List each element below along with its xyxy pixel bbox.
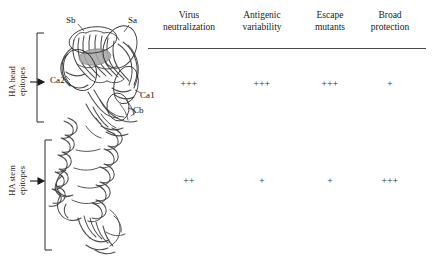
column-header-line2: variability — [242, 22, 281, 34]
column-header-broad-protection: Broad protection — [371, 10, 410, 33]
epitope-ellipse-sa — [97, 21, 143, 74]
head-region-bracket — [37, 33, 44, 122]
column-header-line1: Antigenic — [242, 10, 281, 22]
stem-helix-b — [88, 128, 122, 222]
epitope-label-ca2: Ca2 — [50, 75, 65, 85]
epitope-label-sa: Sa — [128, 15, 137, 25]
region-label-ha-stem: HA stem epitopes — [8, 151, 27, 211]
table-row: +++ — [322, 79, 339, 89]
table-row: + — [327, 176, 333, 186]
column-header-escape-mutants: Escape mutants — [315, 10, 345, 33]
column-header-virus-neutralization: Virus neutralization — [163, 10, 215, 33]
table-row: +++ — [382, 176, 399, 186]
column-header-antigenic-variability: Antigenic variability — [242, 10, 281, 33]
stem-helix-a — [49, 118, 77, 206]
region-label-ha-stem-line2: epitopes — [17, 151, 27, 211]
table-row: + — [259, 176, 265, 186]
region-label-ha-head-line2: epitopes — [17, 52, 27, 112]
column-header-line2: protection — [371, 22, 410, 34]
table-row: +++ — [181, 79, 198, 89]
column-header-line1: Escape — [315, 10, 345, 22]
ha-structure-illustration — [0, 0, 437, 266]
influenza-ha-epitope-figure: HA head epitopes HA stem epitopes Sb Sa … — [0, 0, 437, 266]
table-row: + — [387, 79, 393, 89]
column-header-line1: Broad — [371, 10, 410, 22]
region-label-ha-head: HA head epitopes — [8, 52, 27, 112]
table-header-rule — [148, 48, 426, 49]
column-header-line1: Virus — [163, 10, 215, 22]
epitope-label-ca1: Ca1 — [140, 90, 155, 100]
table-row: +++ — [254, 79, 271, 89]
column-header-line2: mutants — [315, 22, 345, 34]
epitope-label-sb: Sb — [66, 15, 76, 25]
stem-region-arrow — [30, 178, 44, 184]
epitope-label-cb: Cb — [133, 105, 144, 115]
stem-region-bracket — [45, 140, 52, 250]
table-row: ++ — [183, 176, 194, 186]
column-header-line2: neutralization — [163, 22, 215, 34]
